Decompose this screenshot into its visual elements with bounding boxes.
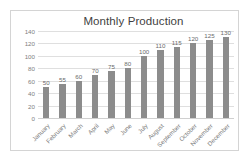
plot-area: 140120100806040200 505560707580100110115… [38, 31, 234, 118]
bar-data-label: 100 [139, 48, 149, 55]
bar[interactable]: 80 [125, 68, 131, 118]
bar-slot: 75 [103, 31, 119, 118]
bar[interactable]: 75 [108, 71, 114, 118]
bar-slot: 100 [136, 31, 152, 118]
chart-title: Monthly Production [11, 15, 238, 27]
y-axis-tick-label: 140 [25, 28, 35, 35]
bar-slot: 55 [54, 31, 70, 118]
y-axis-tick-label: 100 [25, 52, 35, 59]
bar[interactable]: 55 [59, 84, 65, 118]
bar[interactable]: 115 [174, 47, 180, 118]
bar-data-label: 75 [108, 63, 115, 70]
x-axis-slot: May [103, 120, 119, 150]
chart-container[interactable]: Monthly Production 140120100806040200 50… [10, 10, 239, 151]
bar-data-label: 120 [188, 35, 198, 42]
bar-data-label: 55 [59, 76, 66, 83]
y-axis-tick-label: 60 [28, 77, 35, 84]
y-axis-tick-label: 20 [28, 102, 35, 109]
bar-data-label: 125 [204, 32, 214, 39]
x-axis-tick-label: July [136, 122, 149, 135]
bar-data-label: 110 [156, 42, 166, 49]
bar-slot: 80 [120, 31, 136, 118]
bar[interactable]: 70 [92, 75, 98, 119]
y-axis-tick-label: 40 [28, 90, 35, 97]
bar[interactable]: 60 [76, 81, 82, 118]
bar-data-label: 130 [221, 29, 231, 36]
x-axis-tick-label: April [86, 122, 100, 136]
bar-slot: 50 [38, 31, 54, 118]
x-axis-tick-label: May [103, 122, 116, 135]
y-axis-tick-label: 0 [32, 115, 35, 122]
x-axis-slot: June [120, 120, 136, 150]
bar-series: 505560707580100110115120125130 [38, 31, 234, 118]
bar[interactable]: 125 [206, 40, 212, 118]
bar[interactable]: 50 [43, 87, 49, 118]
bar-data-label: 80 [124, 60, 131, 67]
x-axis-slot: April [87, 120, 103, 150]
x-axis-tick-label: June [118, 122, 132, 136]
bar-data-label: 50 [43, 79, 50, 86]
y-axis-tick-label: 120 [25, 40, 35, 47]
bar-slot: 125 [201, 31, 217, 118]
gridline [38, 118, 234, 119]
bar-slot: 130 [218, 31, 234, 118]
bar-slot: 70 [87, 31, 103, 118]
bar-slot: 115 [169, 31, 185, 118]
bar[interactable]: 110 [157, 50, 163, 118]
bar-data-label: 115 [172, 39, 182, 46]
y-axis-tick-label: 80 [28, 65, 35, 72]
bar-data-label: 70 [92, 67, 99, 74]
bar-data-label: 60 [75, 73, 82, 80]
bar-slot: 110 [152, 31, 168, 118]
bar[interactable]: 120 [190, 43, 196, 118]
bar-slot: 60 [71, 31, 87, 118]
bar-slot: 120 [185, 31, 201, 118]
x-axis-slot: December [218, 120, 234, 150]
bar[interactable]: 130 [223, 37, 229, 118]
x-axis-slot: March [71, 120, 87, 150]
x-axis: JanuaryFebruaryMarchAprilMayJuneJulyAugu… [38, 120, 234, 150]
bar[interactable]: 100 [141, 56, 147, 118]
